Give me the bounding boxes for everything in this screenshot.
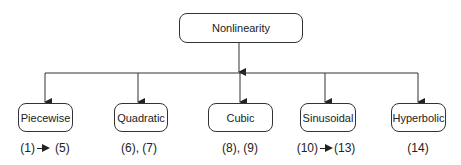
equation-ref-quadratic: (6), (7) (99, 140, 179, 156)
node-label: Hyperbolic (393, 112, 445, 124)
root-node-nonlinearity: Nonlinearity (179, 13, 303, 43)
equation-ref-hyperbolic: (14) (378, 140, 458, 156)
node-label: Cubic (226, 112, 254, 124)
node-label: Piecewise (21, 112, 71, 124)
node-sinusoidal: Sinusoidal (300, 103, 356, 132)
node-piecewise: Piecewise (18, 103, 73, 132)
node-cubic: Cubic (208, 103, 273, 132)
root-node-label: Nonlinearity (212, 22, 270, 34)
equation-ref-piecewise: (1) (5) (5, 140, 85, 156)
arrow-right-icon (320, 144, 332, 152)
arrow-right-icon (37, 144, 49, 152)
equation-ref-cubic: (8), (9) (200, 140, 280, 156)
node-label: Sinusoidal (303, 112, 354, 124)
equation-ref-sinusoidal: (10) (13) (286, 140, 366, 156)
node-hyperbolic: Hyperbolic (391, 103, 446, 132)
node-label: Quadratic (117, 112, 165, 124)
node-quadratic: Quadratic (114, 103, 168, 132)
